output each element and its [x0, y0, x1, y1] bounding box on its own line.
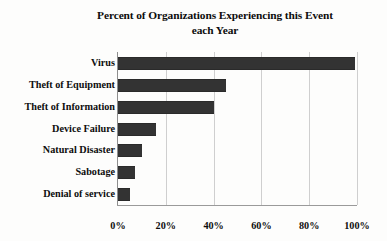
chart-title-line-1: Percent of Organizations Experiencing th… — [60, 8, 370, 23]
bar-virus — [118, 57, 355, 70]
gridline-100pct — [357, 52, 358, 205]
bar-device-failure — [118, 123, 156, 136]
x-tick-label-100pct: 100% — [334, 219, 380, 232]
bar-row — [118, 161, 357, 183]
category-label-natural-disaster: Natural Disaster — [0, 144, 115, 155]
bar-theft-of-equipment — [118, 79, 226, 92]
category-axis-labels: VirusTheft of EquipmentTheft of Informat… — [0, 52, 115, 205]
category-label-sabotage: Sabotage — [0, 166, 115, 177]
chart-title: Percent of Organizations Experiencing th… — [60, 8, 370, 37]
chart-title-line-2: each Year — [60, 23, 370, 38]
value-axis-labels: 0%20%40%60%80%100% — [0, 219, 387, 237]
bar-row — [118, 52, 357, 74]
bar-row — [118, 96, 357, 118]
bar-row — [118, 139, 357, 161]
bar-row — [118, 118, 357, 140]
bar-theft-of-information — [118, 101, 214, 114]
bar-natural-disaster — [118, 144, 142, 157]
x-tick-label-20pct: 20% — [143, 219, 189, 232]
category-label-theft-of-information: Theft of Information — [0, 101, 115, 112]
category-label-device-failure: Device Failure — [0, 123, 115, 134]
bar-chart-figure: Percent of Organizations Experiencing th… — [0, 0, 387, 241]
x-tick-label-40pct: 40% — [191, 219, 237, 232]
category-label-theft-of-equipment: Theft of Equipment — [0, 79, 115, 90]
bar-row — [118, 74, 357, 96]
bar-denial-of-service — [118, 188, 130, 201]
x-tick-label-80pct: 80% — [286, 219, 332, 232]
bars-layer — [118, 52, 357, 205]
x-axis-line — [117, 205, 357, 206]
plot-area — [118, 52, 357, 205]
category-label-denial-of-service: Denial of service — [0, 188, 115, 199]
x-tick-label-0pct: 0% — [95, 219, 141, 232]
x-tick-label-60pct: 60% — [238, 219, 284, 232]
category-label-virus: Virus — [0, 57, 115, 68]
bar-sabotage — [118, 166, 135, 179]
bar-row — [118, 183, 357, 205]
